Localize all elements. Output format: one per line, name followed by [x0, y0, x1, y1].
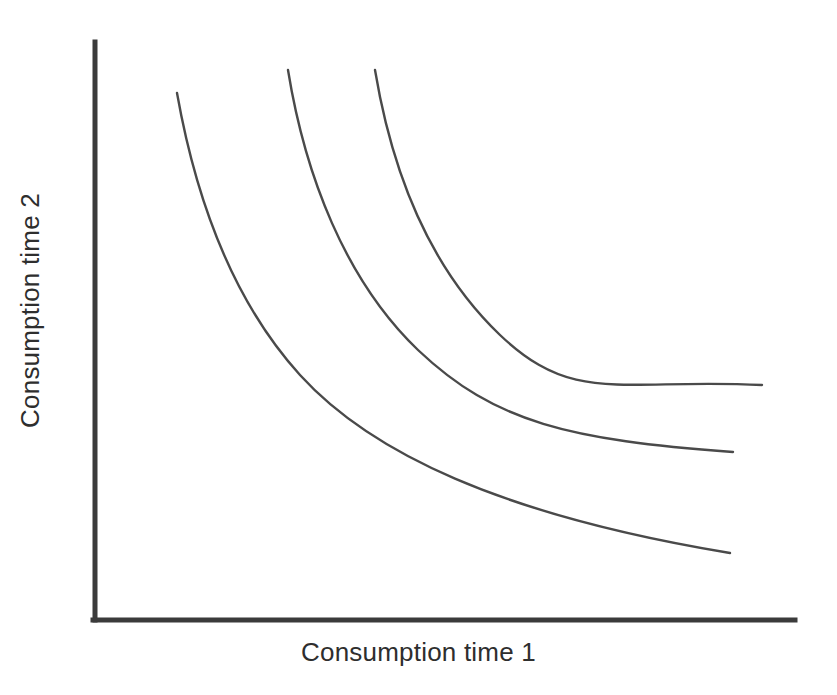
indifference-curve-figure: Consumption time 2 Consumption time 1	[0, 0, 837, 695]
y-axis-label-text: Consumption time 2	[15, 193, 46, 428]
indifference-curve-3	[375, 70, 762, 385]
y-axis-label: Consumption time 2	[0, 0, 60, 620]
indifference-curve-2	[288, 70, 733, 452]
x-axis-label: Consumption time 1	[0, 637, 837, 668]
indifference-curve-1	[177, 93, 730, 553]
plot-area	[0, 0, 837, 695]
